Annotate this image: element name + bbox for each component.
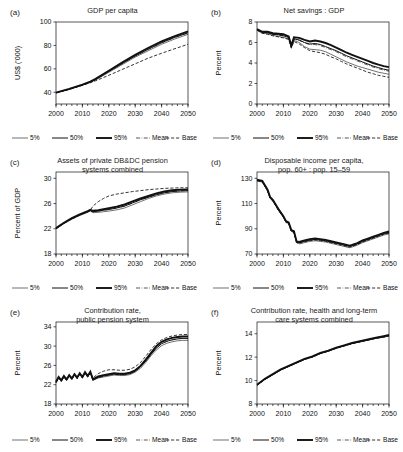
series-line-base — [56, 44, 188, 93]
x-tick-label: 2050 — [180, 110, 196, 117]
legend-label-p50: 50% — [271, 436, 284, 443]
y-tick-label: 18 — [44, 400, 52, 407]
y-tick-label: 4 — [249, 59, 253, 66]
legend-label-base: Base — [383, 284, 398, 291]
x-tick-label: 2040 — [355, 410, 371, 417]
legend-d: 5%50%95%MeanBase — [209, 282, 399, 294]
y-axis-label-a: US$ ('000) — [13, 46, 22, 80]
y-tick-label: 26 — [44, 362, 52, 369]
y-tick-label: 130 — [241, 175, 253, 182]
legend-label-p95: 95% — [315, 436, 328, 443]
series-line-mean — [257, 180, 389, 246]
x-tick-label: 2050 — [381, 110, 397, 117]
legend-label-p5: 5% — [30, 284, 40, 291]
x-tick-label: 2020 — [101, 410, 117, 417]
x-tick-label: 2000 — [48, 110, 64, 117]
x-tick-label: 2010 — [276, 260, 292, 267]
legend-label-p5: 5% — [231, 134, 241, 141]
x-tick-label: 2000 — [249, 260, 265, 267]
panel-letter-e: (e) — [10, 308, 20, 317]
x-tick-label: 2030 — [328, 260, 344, 267]
legend-label-base: Base — [383, 134, 398, 141]
x-tick-label: 2000 — [249, 110, 265, 117]
panel-title-line: public pension system — [30, 315, 195, 324]
x-tick-label: 2020 — [302, 410, 318, 417]
legend-graphic: 5%50%95%MeanBase — [209, 282, 399, 294]
y-tick-label: 90 — [245, 225, 253, 232]
x-tick-label: 2010 — [276, 110, 292, 117]
y-tick-label: 22 — [44, 225, 52, 232]
panel-title-line: Assets of private DB&DC pension — [30, 156, 195, 165]
legend-graphic: 5%50%95%MeanBase — [8, 434, 198, 446]
legend-label-base: Base — [182, 284, 197, 291]
y-axis-label-e: Percent — [13, 351, 22, 376]
series-line-base — [257, 30, 389, 77]
x-tick-label: 2030 — [328, 110, 344, 117]
y-axis-label-f: Percent — [214, 351, 223, 376]
series-line-mean — [56, 191, 188, 229]
y-tick-label: 70 — [245, 250, 253, 257]
panel-letter-b: (b) — [211, 8, 221, 17]
y-tick-label: 30 — [44, 175, 52, 182]
x-tick-label: 2020 — [101, 260, 117, 267]
panel-letter-f: (f) — [211, 308, 219, 317]
chart-panel-c: (c)Assets of private DB&DC pensionsystem… — [0, 150, 201, 300]
legend-label-p95: 95% — [114, 436, 127, 443]
series-line-5pct — [56, 192, 188, 229]
chart-panel-e: (e)Contribution rate,public pension syst… — [0, 300, 201, 452]
x-tick-label: 2040 — [154, 110, 170, 117]
panel-title-e: Contribution rate,public pension system — [30, 306, 195, 324]
panel-title-b: Net savings : GDP — [231, 6, 397, 15]
y-tick-label: 110 — [241, 200, 252, 207]
x-tick-label: 2040 — [355, 110, 371, 117]
panel-title-line: systems combined — [30, 165, 195, 174]
legend-label-p50: 50% — [70, 436, 83, 443]
series-line-base — [257, 336, 389, 385]
x-tick-label: 2020 — [302, 110, 318, 117]
y-tick-label: 2 — [249, 80, 253, 87]
x-tick-label: 2010 — [75, 260, 91, 267]
x-tick-label: 2040 — [355, 260, 371, 267]
legend-label-base: Base — [182, 436, 197, 443]
x-tick-label: 2030 — [127, 260, 143, 267]
x-tick-label: 2000 — [48, 410, 64, 417]
legend-graphic: 5%50%95%MeanBase — [8, 282, 198, 294]
legend-label-p95: 95% — [114, 284, 127, 291]
legend-graphic: 5%50%95%MeanBase — [209, 434, 399, 446]
legend-label-p5: 5% — [30, 134, 40, 141]
panel-title-line: care systems combined — [231, 315, 397, 324]
y-tick-label: 22 — [44, 381, 52, 388]
figure-panel-grid: (a)GDP per capita40608010020002010202020… — [0, 0, 403, 452]
y-axis-label-b: Percent — [214, 51, 223, 76]
x-tick-label: 2000 — [249, 410, 265, 417]
legend-label-p50: 50% — [70, 284, 83, 291]
x-tick-label: 2010 — [75, 410, 91, 417]
x-tick-label: 2050 — [180, 260, 196, 267]
y-tick-label: 14 — [245, 330, 253, 337]
legend-label-base: Base — [182, 134, 197, 141]
legend-label-p95: 95% — [114, 134, 127, 141]
x-tick-label: 2020 — [302, 260, 318, 267]
legend-label-p50: 50% — [70, 134, 83, 141]
chart-panel-f: (f)Contribution rate, health and long-te… — [201, 300, 403, 452]
panel-title-line: GDP per capita — [30, 6, 195, 15]
legend-label-p5: 5% — [30, 436, 40, 443]
x-tick-label: 2050 — [381, 410, 397, 417]
legend-b: 5%50%95%MeanBase — [209, 132, 399, 144]
y-tick-label: 18 — [44, 250, 52, 257]
panel-title-c: Assets of private DB&DC pensionsystems c… — [30, 156, 195, 174]
y-tick-label: 10 — [245, 377, 253, 384]
legend-graphic: 5%50%95%MeanBase — [209, 132, 399, 144]
chart-panel-d: (d)Disposable income per capita,pop. 60+… — [201, 150, 403, 300]
chart-panel-a: (a)GDP per capita40608010020002010202020… — [0, 0, 201, 150]
panel-title-line: Net savings : GDP — [231, 6, 397, 15]
panel-title-line: Contribution rate, — [30, 306, 195, 315]
series-line-base — [257, 181, 389, 247]
series-line-95pct — [257, 180, 389, 246]
panel-letter-d: (d) — [211, 158, 221, 167]
y-tick-label: 30 — [44, 343, 52, 350]
y-tick-label: 80 — [44, 42, 52, 49]
legend-label-p95: 95% — [315, 134, 328, 141]
legend-label-base: Base — [383, 436, 398, 443]
chart-panel-b: (b)Net savings : GDP02468200020102020203… — [201, 0, 403, 150]
